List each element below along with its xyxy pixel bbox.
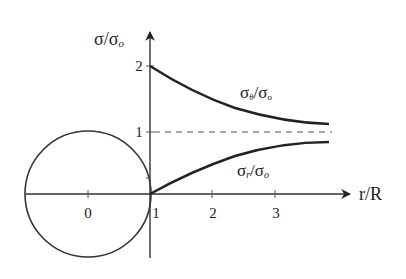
stress-diagram: 0 1 2 3 1 2 r/R σ/σo σθ/σo σr/σo (0, 0, 406, 279)
x-tick-label-2: 2 (209, 205, 217, 221)
x-tick-label-1: 1 (152, 205, 160, 221)
x-axis-label: r/R (359, 184, 382, 204)
y-axis-label: σ/σo (94, 29, 124, 49)
radial-stress-label: σr/σo (237, 161, 269, 180)
y-tick-label-1: 1 (135, 124, 143, 140)
y-tick-label-2: 2 (135, 58, 143, 74)
x-tick-label-0: 0 (84, 205, 92, 221)
x-tick-label-3: 3 (272, 205, 280, 221)
hoop-stress-label: σθ/σo (240, 83, 272, 102)
